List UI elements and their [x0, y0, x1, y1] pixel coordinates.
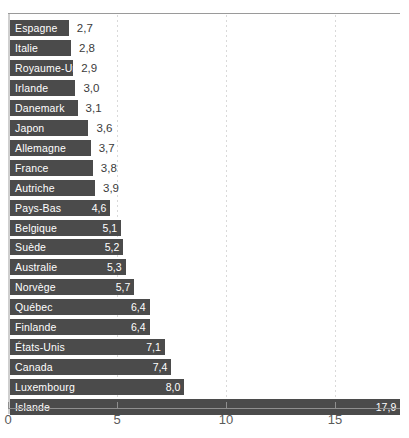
bar-row[interactable]: Pays-Bas4,6: [10, 200, 400, 216]
x-tick-5: [117, 402, 118, 408]
bar[interactable]: Québec6,4: [10, 299, 150, 315]
bar-value-label: 6,4: [131, 299, 146, 315]
bar-value-label: 5,2: [105, 239, 120, 255]
bar-category-label: Autriche: [15, 180, 55, 196]
bar[interactable]: Suède5,2: [10, 239, 123, 255]
bar[interactable]: Finlande6,4: [10, 319, 150, 335]
bar-row[interactable]: Finlande6,4: [10, 319, 400, 335]
x-tick-15: [335, 402, 336, 408]
bar-category-label: Québec: [15, 299, 53, 315]
bar-category-label: Canada: [15, 359, 53, 375]
bar-value-label: 3,1: [86, 100, 102, 116]
bar-category-label: Australie: [15, 259, 57, 275]
bar-value-label: 8,0: [166, 379, 181, 395]
bar-row[interactable]: Autriche3,9: [10, 180, 400, 196]
bar-category-label: Luxembourg: [15, 379, 75, 395]
bar-value-label: 3,7: [99, 140, 115, 156]
bar[interactable]: Norvège5,7: [10, 279, 134, 295]
bar-category-label: Pays-Bas: [15, 200, 61, 216]
bar-row[interactable]: Irlande3,0: [10, 80, 400, 96]
x-axis-line: [8, 408, 400, 409]
bar-category-label: Allemagne: [15, 140, 66, 156]
bar-category-label: Danemark: [15, 100, 65, 116]
bar[interactable]: Royaume-Uni: [10, 60, 73, 76]
bar-chart: Espagne2,7Italie2,8Royaume-Uni2,9Irlande…: [0, 0, 409, 438]
bar[interactable]: Danemark: [10, 100, 78, 116]
bar-value-label: 5,3: [107, 259, 122, 275]
bar-value-label: 2,7: [77, 20, 93, 36]
bar-value-label: 2,8: [79, 40, 95, 56]
bar-row[interactable]: Allemagne3,7: [10, 140, 400, 156]
bar-row[interactable]: Norvège5,7: [10, 279, 400, 295]
bar[interactable]: Italie: [10, 40, 71, 56]
bar-row[interactable]: Espagne2,7: [10, 20, 400, 36]
x-tick-0: [8, 402, 9, 408]
bar-row[interactable]: Suède5,2: [10, 239, 400, 255]
bar-category-label: Royaume-Uni: [15, 60, 81, 76]
bar-value-label: 4,6: [92, 200, 107, 216]
bar-value-label: 5,7: [116, 279, 131, 295]
bar-row[interactable]: Royaume-Uni2,9: [10, 60, 400, 76]
bar-row[interactable]: Italie2,8: [10, 40, 400, 56]
bar-category-label: Japon: [15, 120, 44, 136]
bar-row[interactable]: Québec6,4: [10, 299, 400, 315]
bar-row[interactable]: États-Unis7,1: [10, 339, 400, 355]
bar[interactable]: Belgique5,1: [10, 220, 121, 236]
bar[interactable]: Japon: [10, 120, 88, 136]
bar-value-label: 2,9: [81, 60, 97, 76]
bar-value-label: 3,9: [103, 180, 119, 196]
bar-row[interactable]: Canada7,4: [10, 359, 400, 375]
bar[interactable]: Pays-Bas4,6: [10, 200, 110, 216]
top-rule: [8, 13, 400, 14]
bar-category-label: Finlande: [15, 319, 56, 335]
bar-series: Espagne2,7Italie2,8Royaume-Uni2,9Irlande…: [10, 15, 400, 407]
bar[interactable]: Luxembourg8,0: [10, 379, 184, 395]
bar-category-label: Espagne: [15, 20, 58, 36]
bar[interactable]: Autriche: [10, 180, 95, 196]
bar-value-label: 7,1: [146, 339, 161, 355]
bar-row[interactable]: Australie5,3: [10, 259, 400, 275]
bar-value-label: 5,1: [103, 220, 118, 236]
bar-value-label: 3,8: [101, 160, 117, 176]
bar-value-label: 3,0: [83, 80, 99, 96]
x-tick-10: [226, 402, 227, 408]
bar-row[interactable]: Luxembourg8,0: [10, 379, 400, 395]
bar-value-label: 6,4: [131, 319, 146, 335]
bar-category-label: Suède: [15, 239, 46, 255]
bar[interactable]: Australie5,3: [10, 259, 126, 275]
bar[interactable]: Allemagne: [10, 140, 91, 156]
bar-category-label: Italie: [15, 40, 38, 56]
bar[interactable]: Espagne: [10, 20, 69, 36]
bar-row[interactable]: France3,8: [10, 160, 400, 176]
x-tick-label-10: 10: [219, 412, 233, 427]
plot-area: Espagne2,7Italie2,8Royaume-Uni2,9Irlande…: [8, 13, 400, 414]
bar[interactable]: Canada7,4: [10, 359, 171, 375]
x-tick-label-5: 5: [113, 412, 120, 427]
bar[interactable]: États-Unis7,1: [10, 339, 165, 355]
bar-category-label: France: [15, 160, 49, 176]
bar-row[interactable]: Japon3,6: [10, 120, 400, 136]
x-tick-label-15: 15: [328, 412, 342, 427]
bar-row[interactable]: Danemark3,1: [10, 100, 400, 116]
bar-row[interactable]: Belgique5,1: [10, 220, 400, 236]
bar[interactable]: France: [10, 160, 93, 176]
x-tick-label-0: 0: [4, 412, 11, 427]
bar-value-label: 7,4: [153, 359, 168, 375]
bar-category-label: Belgique: [15, 220, 57, 236]
bar-category-label: Norvège: [15, 279, 56, 295]
bar-category-label: Irlande: [15, 80, 48, 96]
bar[interactable]: Irlande: [10, 80, 75, 96]
bar-value-label: 3,6: [96, 120, 112, 136]
bar-category-label: États-Unis: [15, 339, 65, 355]
